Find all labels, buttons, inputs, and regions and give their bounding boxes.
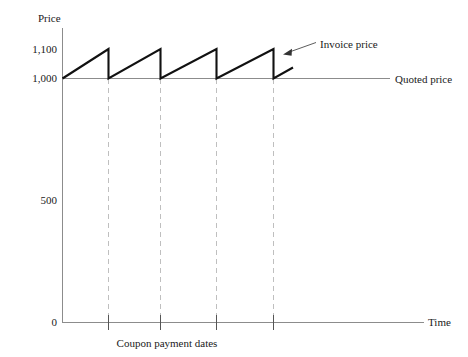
y-tick-label-500: 500 bbox=[41, 194, 58, 206]
invoice-leader-line bbox=[288, 43, 316, 53]
y-axis-title: Price bbox=[38, 12, 61, 24]
invoice-arrow-head bbox=[283, 49, 292, 56]
invoice-price-annotation-arrow bbox=[283, 43, 316, 56]
y-tick-label-1100: 1,100 bbox=[32, 43, 57, 55]
coupon-date-gridlines bbox=[109, 79, 274, 322]
coupon-payment-dates-caption: Coupon payment dates bbox=[117, 337, 218, 349]
quoted-price-label: Quoted price bbox=[395, 73, 452, 85]
invoice-price-label: Invoice price bbox=[320, 38, 378, 50]
y-tick-label-1000: 1,000 bbox=[32, 72, 57, 84]
y-tick-label-0: 0 bbox=[52, 316, 58, 328]
chart-canvas: 1,100 1,000 500 0 Price Time Invoice pri… bbox=[0, 0, 468, 357]
bond-price-chart: 1,100 1,000 500 0 Price Time Invoice pri… bbox=[0, 0, 468, 357]
x-axis-title: Time bbox=[428, 316, 451, 328]
invoice-price-series bbox=[63, 49, 294, 79]
